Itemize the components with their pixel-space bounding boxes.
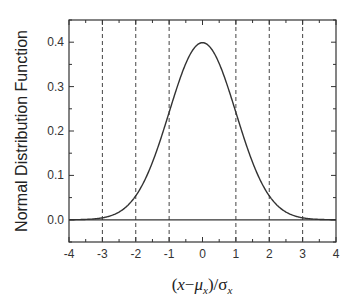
y-tick-label: 0.2 (47, 124, 64, 138)
y-tick-label: 0.1 (47, 168, 64, 182)
y-tick-label: 0.4 (47, 35, 64, 49)
x-tick-label: 3 (299, 247, 306, 261)
x-tick-label: -2 (130, 247, 141, 261)
chart: -4-3-2-101234 0.00.10.20.30.4 Normal Dis… (0, 0, 354, 308)
x-tick-label: 0 (199, 247, 206, 261)
x-tick-label: -4 (64, 247, 75, 261)
plot-frame (69, 20, 336, 242)
x-tick-label: -3 (97, 247, 108, 261)
x-tick-label: 1 (233, 247, 240, 261)
y-tick-label: 0.0 (47, 213, 64, 227)
x-tick-label: 2 (266, 247, 273, 261)
x-tick-label: 4 (333, 247, 340, 261)
sigma-dashed-lines (102, 20, 302, 242)
normal-pdf-curve (69, 43, 336, 220)
y-tick-label: 0.3 (47, 80, 64, 94)
x-axis-ticks: -4-3-2-101234 (64, 20, 340, 261)
y-axis-label: Normal Distribution Function (13, 30, 30, 232)
y-axis-ticks: 0.00.10.20.30.4 (47, 20, 336, 242)
x-tick-label: -1 (164, 247, 175, 261)
x-axis-label: (x−μx)/σx (172, 275, 233, 296)
